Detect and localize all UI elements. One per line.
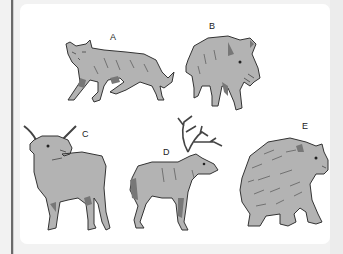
left-border-highlight [13, 0, 14, 254]
wolf-illustration [64, 38, 179, 108]
right-margin [330, 0, 343, 254]
reindeer-illustration [122, 112, 230, 234]
cattle-illustration [22, 124, 112, 236]
boar-illustration [184, 30, 264, 115]
bear-illustration [236, 134, 331, 234]
label-e: E [302, 122, 308, 131]
